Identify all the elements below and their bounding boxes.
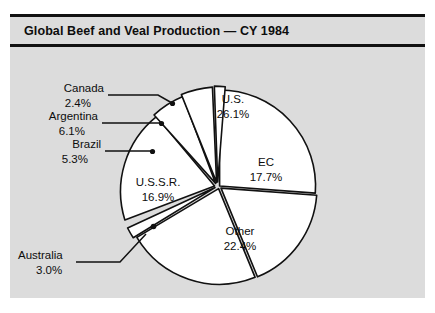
chart-title: Global Beef and Veal Production — CY 198… — [10, 24, 289, 38]
slice-label-us: U.S. 26.1% — [198, 92, 268, 121]
callout-label-argentina: Argentina 6.1% — [22, 109, 98, 138]
slice-label-ussr: U.S.S.R. 16.9% — [120, 175, 196, 204]
chart-figure: Global Beef and Veal Production — CY 198… — [10, 14, 425, 298]
callout-label-canada: Canada 2.4% — [28, 81, 104, 110]
callout-label-brazil: Brazil 5.3% — [25, 137, 101, 166]
slice-label-other: Other 22.4% — [205, 224, 275, 253]
slice-label-us-value: 26.1% — [198, 107, 268, 122]
slice-label-ussr-name: U.S.S.R. — [120, 175, 196, 190]
callout-label-australia: Australia 3.0% — [18, 248, 94, 277]
callout-label-australia-name: Australia — [18, 248, 94, 263]
slice-label-ec-name: EC — [231, 155, 301, 170]
slice-label-other-name: Other — [205, 224, 275, 239]
slice-label-other-value: 22.4% — [205, 239, 275, 254]
leader-canada — [108, 95, 175, 106]
pie-chart-plot-area: U.S. 26.1% EC 17.7% Other 22.4% U.S.S.R.… — [10, 47, 425, 298]
slice-label-ec-value: 17.7% — [231, 170, 301, 185]
callout-label-canada-name: Canada — [28, 81, 104, 96]
chart-title-bar: Global Beef and Veal Production — CY 198… — [10, 14, 425, 47]
callout-label-argentina-name: Argentina — [22, 109, 98, 124]
callout-label-australia-value: 3.0% — [18, 263, 94, 278]
slice-label-us-name: U.S. — [198, 92, 268, 107]
callout-label-brazil-value: 5.3% — [25, 152, 101, 167]
callout-label-brazil-name: Brazil — [25, 137, 101, 152]
slice-label-ec: EC 17.7% — [231, 155, 301, 184]
slice-label-ussr-value: 16.9% — [120, 190, 196, 205]
